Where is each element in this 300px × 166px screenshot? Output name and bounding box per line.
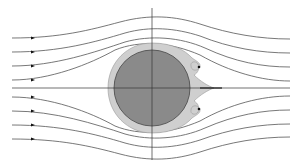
flow-diagram [0, 0, 300, 166]
upper-vortex-core [198, 66, 201, 69]
diagram-canvas [0, 0, 300, 166]
lower-vortex-core [198, 108, 201, 111]
